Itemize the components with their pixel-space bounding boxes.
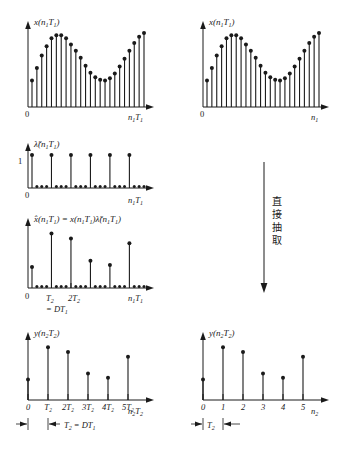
dim-arrow-right [49,422,56,427]
x-tick-label: 4T₂ [102,402,114,412]
x-axis-arrowhead [146,104,154,110]
stem-marker [244,43,248,47]
stem-marker [301,355,305,359]
y-axis-arrowhead [25,332,31,340]
panel-top-left-origin-tick: 0 [25,109,29,119]
panel-mid-product-xtick-2T2: 2T2 [68,293,80,304]
stem-marker [298,57,302,61]
panel-top-right: x(n1T1) 0 n1 [200,17,329,123]
panel-top-right-ylabel: x(n1T1) [208,17,235,28]
zero-marker [94,285,97,288]
zero-marker [138,285,141,288]
zero-marker [35,285,38,288]
zero-marker [118,285,121,288]
zero-marker [99,285,102,288]
stem-marker [288,71,292,75]
zero-marker [99,185,102,188]
stem-marker [49,231,53,235]
stem-marker [123,57,127,61]
zero-marker [35,185,38,188]
x-tick-label: 2 [241,402,246,412]
stem-series-mid-sampler [30,153,146,188]
stem-marker [103,78,107,82]
panel-top-left-ylabel: x(n1T1) [33,17,60,28]
stem-series-mid-product [30,231,146,288]
dim-arrow-left [195,422,202,427]
panel-bottom-left-xticklabels: 0T₂2T₂3T₂4T₂5T₂ [26,394,134,412]
stem-marker [317,31,321,35]
stem-marker [293,64,297,68]
stem-marker [229,33,233,37]
zero-marker [60,285,63,288]
stem-marker [26,378,30,382]
stem-marker [66,350,70,354]
zero-marker [84,285,87,288]
panel-top-left-xlabel: n1T1 [128,112,143,123]
zero-marker [143,285,146,288]
zero-marker [113,285,116,288]
panel-mid-product-origin-tick: 0 [25,291,29,301]
y-axis-arrowhead [25,21,31,29]
stem-marker [220,44,224,48]
stem-marker [45,44,49,48]
stem-marker [118,64,122,68]
stem-marker [88,259,92,263]
zero-marker [104,285,107,288]
stem-marker [64,36,68,40]
stem-marker [254,56,258,60]
x-axis-arrowhead [146,397,154,403]
zero-marker [74,285,77,288]
stem-marker [281,376,285,380]
stem-marker [210,66,214,70]
stem-marker [35,66,39,70]
stem-marker [278,78,282,82]
zero-marker [133,185,136,188]
zero-marker [65,285,68,288]
stem-marker [49,153,53,157]
zero-marker [74,185,77,188]
panel-bottom-right-xticklabels: 012345 [201,394,305,412]
x-tick-label: 5 [301,402,305,412]
y-axis-arrowhead [200,21,206,29]
stem-marker [88,71,92,75]
stem-marker [84,64,88,68]
panel-mid-sampler-xlabel: n1T1 [128,195,143,206]
zero-marker [104,185,107,188]
decimation-arrow-head [261,283,268,293]
stem-marker [127,241,131,245]
zero-marker [143,185,146,188]
y-axis-arrowhead [25,218,31,226]
panel-bottom-right-dimension: T2 [191,418,240,431]
stem-series-bottom-left [26,345,130,400]
stem-marker [69,43,73,47]
stem-marker [283,76,287,80]
stem-marker [249,49,253,53]
zero-marker [79,285,82,288]
dim-arrow-left [20,422,27,427]
stem-marker [224,36,228,40]
zero-marker [55,185,58,188]
stem-series-top-left [30,31,146,107]
stem-marker [241,350,245,354]
stem-marker [239,36,243,40]
stem-marker [307,41,311,45]
panel-mid-product-xtick-T2: T2 [46,293,54,304]
stem-marker [86,372,90,376]
stem-marker [40,54,44,58]
stem-marker [142,31,146,35]
x-axis-arrowhead [146,285,154,291]
stem-marker [108,76,112,80]
decimation-figure: x(n1T1) 0 n1T1 x(n1T1) 0 n1 λ̃(n1T1) 1 0… [0,0,350,460]
x-tick-label: 5T₂ [122,402,134,412]
panel-bottom-left: y(n2T2) n2T2 0T₂2T₂3T₂4T₂5T₂ T2 = DT1 [16,328,154,431]
stem-marker [74,49,78,53]
stem-marker [106,376,110,380]
zero-marker [60,185,63,188]
panel-bottom-right-dim-label: T2 [207,420,215,431]
stem-marker [98,78,102,82]
zero-marker [123,185,126,188]
x-tick-label: 0 [201,402,206,412]
panel-bottom-left-ylabel: y(n2T2) [33,328,60,339]
dim-arrow-right [224,422,231,427]
x-tick-label: 3T₂ [81,402,94,412]
